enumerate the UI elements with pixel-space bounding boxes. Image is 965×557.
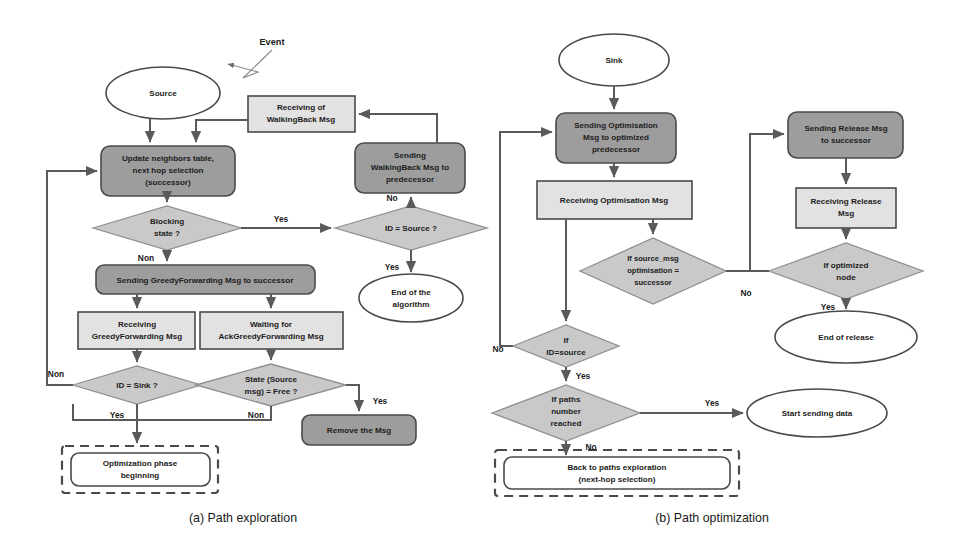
node-receiving-release[interactable]: Receiving Release Msg: [796, 188, 896, 228]
node-sending-release-line1: Sending Release Msg: [804, 124, 887, 133]
node-if-id-source-line1: If: [564, 336, 569, 345]
event-label: Event: [259, 37, 284, 47]
panel-b: Sink Sending Optimisation Msg to optimiz…: [492, 34, 923, 496]
node-if-source-msg-line3: successor: [634, 278, 672, 287]
node-if-source-msg-line1: If source_msg: [627, 254, 679, 263]
node-update-neighbors-line1: Update neighbors table,: [122, 154, 214, 163]
node-if-optimized-line1: If optimized: [824, 261, 869, 270]
figure-root: Event Source Receiving of WalkingBack Ms…: [0, 0, 965, 557]
node-sending-optimisation-line3: predecessor: [592, 145, 641, 154]
edge-label-state-yes: Yes: [373, 396, 388, 406]
node-receiving-greedyforwarding-line2: GreedyForwarding Msg: [92, 332, 182, 341]
node-id-sink-label: ID = Sink ?: [116, 381, 158, 390]
edge-label-b-paths-no: No: [585, 442, 596, 452]
node-if-optimized[interactable]: If optimized node: [769, 243, 923, 299]
node-receiving-release-line1: Receiving Release: [810, 197, 882, 206]
node-end-algorithm-line1: End of the: [391, 288, 431, 297]
node-sink-label: Sink: [605, 56, 623, 65]
node-source[interactable]: Source: [106, 67, 220, 119]
node-receiving-walkingback-line2: WalkingBack Msg: [267, 115, 336, 124]
node-if-paths-line1: If paths: [552, 395, 581, 404]
event-annotation: Event: [228, 37, 285, 78]
node-back-to-paths-line1: Back to paths exploration: [568, 463, 667, 472]
node-sending-optimisation-line1: Sending Optimisation: [574, 121, 658, 130]
node-if-optimized-line2: node: [836, 273, 856, 282]
node-update-neighbors-line2: next hop selection: [132, 166, 203, 175]
node-if-paths[interactable]: If paths number reached: [492, 385, 640, 441]
node-optimization-phase-line2: beginning: [121, 471, 160, 480]
node-waiting-ack-line1: Waiting for: [250, 320, 293, 329]
node-state-free-line1: State (Source: [245, 375, 298, 384]
edge-label-blocking-yes: Yes: [274, 214, 289, 224]
edge-label-blocking-non: Non: [138, 253, 154, 263]
caption-panel-b: (b) Path optimization: [655, 511, 769, 525]
node-waiting-ack-line2: AckGreedyForwarding Msg: [218, 332, 323, 341]
node-sending-greedyforwarding-label: Sending GreedyForwarding Msg to successo…: [117, 276, 295, 285]
node-remove-msg[interactable]: Remove the Msg: [302, 415, 416, 445]
node-start-sending-data-label: Start sending data: [782, 409, 853, 418]
node-end-algorithm-line2: algorithm: [393, 300, 430, 309]
edge-label-b-idsource-no: No: [492, 344, 503, 354]
node-end-release-label: End of release: [818, 333, 874, 342]
node-optimization-phase-line1: Optimization phase: [103, 459, 178, 468]
node-if-id-source[interactable]: If ID=source: [513, 325, 619, 367]
node-receiving-greedyforwarding-line1: Receiving: [118, 320, 156, 329]
node-remove-msg-label: Remove the Msg: [327, 426, 391, 435]
node-optimization-phase[interactable]: Optimization phase beginning: [62, 446, 218, 493]
node-sending-release[interactable]: Sending Release Msg to successor: [788, 112, 903, 158]
node-receiving-walkingback[interactable]: Receiving of WalkingBack Msg: [248, 96, 355, 132]
node-sending-walkingback-line2: WalkingBack Msg to: [371, 163, 449, 172]
node-id-source[interactable]: ID = Source ?: [335, 206, 487, 250]
node-receiving-greedyforwarding[interactable]: Receiving GreedyForwarding Msg: [78, 312, 195, 349]
node-if-id-source-line2: ID=source: [546, 348, 586, 357]
node-receiving-optimisation-label: Receiving Optimisation Msg: [560, 196, 668, 205]
node-back-to-paths-line2: (next-hop selection): [579, 475, 656, 484]
node-source-label: Source: [149, 89, 177, 98]
node-end-release[interactable]: End of release: [775, 311, 917, 363]
node-id-source-label: ID = Source ?: [385, 224, 437, 233]
edge-label-idsource-no: No: [386, 193, 397, 203]
panel-a: Event Source Receiving of WalkingBack Ms…: [47, 37, 487, 493]
node-id-sink[interactable]: ID = Sink ?: [73, 366, 201, 404]
node-state-free-line2: msg) = Free ?: [245, 387, 298, 396]
edge-label-state-non: Non: [248, 410, 264, 420]
node-sink[interactable]: Sink: [559, 34, 669, 86]
node-receiving-walkingback-line1: Receiving of: [277, 103, 325, 112]
node-receiving-release-line2: Msg: [838, 209, 854, 218]
node-if-paths-line3: reached: [550, 419, 581, 428]
node-waiting-ack[interactable]: Waiting for AckGreedyForwarding Msg: [200, 312, 343, 349]
figure-captions: (a) Path exploration (b) Path optimizati…: [189, 511, 769, 525]
edge-label-idsink-non: Non: [48, 369, 64, 379]
node-sending-walkingback-line1: Sending: [394, 151, 426, 160]
node-if-paths-line2: number: [551, 407, 582, 416]
node-sending-greedyforwarding[interactable]: Sending GreedyForwarding Msg to successo…: [96, 265, 315, 294]
node-update-neighbors-line3: (successor): [145, 178, 191, 187]
node-end-algorithm[interactable]: End of the algorithm: [359, 274, 463, 322]
node-sending-optimisation[interactable]: Sending Optimisation Msg to optimized pr…: [556, 113, 676, 163]
node-blocking-state-line2: state ?: [154, 229, 180, 238]
node-sending-release-line2: to successor: [821, 136, 872, 145]
node-if-source-msg[interactable]: If source_msg optimisation = successor: [580, 238, 726, 304]
edge-label-idsource-yes: Yes: [385, 262, 400, 272]
caption-panel-a: (a) Path exploration: [189, 511, 297, 525]
node-blocking-state[interactable]: Blocking state ?: [93, 206, 241, 250]
edge-label-b-optimized-no: No: [740, 288, 751, 298]
node-receiving-optimisation[interactable]: Receiving Optimisation Msg: [537, 181, 692, 219]
edge-label-b-optimized-yes: Yes: [821, 302, 836, 312]
edge-label-b-idsource-yes: Yes: [576, 371, 591, 381]
node-blocking-state-line1: Blocking: [150, 217, 184, 226]
node-start-sending-data[interactable]: Start sending data: [747, 389, 887, 437]
flowchart-canvas: Event Source Receiving of WalkingBack Ms…: [0, 0, 965, 557]
node-sending-optimisation-line2: Msg to optimized: [583, 133, 649, 142]
node-sending-walkingback[interactable]: Sending WalkingBack Msg to predecessor: [355, 143, 465, 193]
node-update-neighbors[interactable]: Update neighbors table, next hop selecti…: [101, 146, 235, 196]
edge-label-idsink-yes: Yes: [110, 410, 125, 420]
node-state-free[interactable]: State (Source msg) = Free ?: [196, 364, 346, 406]
edge-label-b-paths-yes: Yes: [705, 398, 720, 408]
node-back-to-paths[interactable]: Back to paths exploration (next-hop sele…: [495, 450, 739, 496]
node-if-source-msg-line2: optimisation =: [627, 266, 679, 275]
node-sending-walkingback-line3: predecessor: [386, 175, 435, 184]
